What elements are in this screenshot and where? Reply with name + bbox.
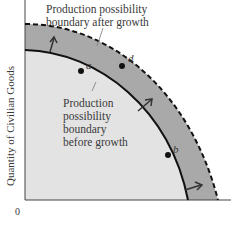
point-a-label: a (86, 59, 92, 71)
before-growth-label-line4: before growth (63, 136, 128, 149)
origin-label: 0 (15, 206, 20, 217)
point-a (78, 68, 84, 74)
after-growth-label-line2: boundary after growth (46, 16, 149, 29)
point-b-label: b (173, 143, 179, 155)
before-growth-label-line2: possibility (63, 110, 111, 123)
y-axis-label: Quantity of Civilian Goods (4, 66, 16, 186)
point-d-label: d (128, 52, 134, 64)
point-b (165, 152, 171, 158)
point-d (119, 63, 125, 69)
before-growth-label-line3: boundary (63, 123, 107, 136)
before-growth-label-line1: Production (63, 97, 114, 109)
after-growth-label-line1: Production possibility (46, 3, 148, 16)
ppb-diagram: a d b Production possibility boundary af… (0, 0, 231, 226)
